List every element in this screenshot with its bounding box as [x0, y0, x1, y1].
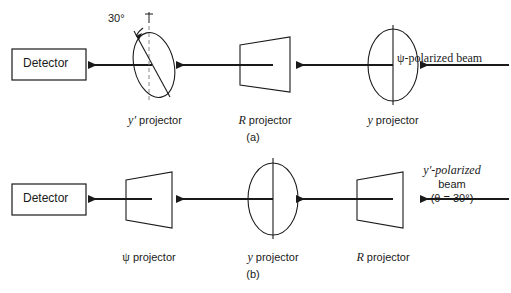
y-prime-var-b: y′-polarized: [423, 163, 480, 177]
y-projector-label-b: y projector: [247, 250, 298, 265]
y-prime-projector-word: projector: [136, 114, 182, 126]
beam-source-label-b: y′-polarized beam (θ = 30°): [423, 163, 480, 206]
beam-source-line3: (θ = 30°): [423, 192, 480, 206]
beam-source-line1: y′-polarized: [423, 163, 480, 178]
beam-source-line2: beam: [423, 178, 480, 192]
psi-projector-label-b: ψ projector: [122, 250, 175, 265]
angle-label-30deg: 30°: [108, 12, 125, 26]
y-projector-word-a: projector: [373, 114, 419, 126]
panel-caption-b: (b): [246, 268, 259, 282]
psi-var-b: ψ: [122, 250, 130, 264]
detector-label-a: Detector: [23, 56, 68, 71]
r-projector-word-b: projector: [364, 251, 410, 263]
detector-label-b: Detector: [23, 191, 68, 206]
y-prime-projector-label: y′ projector: [128, 113, 182, 128]
y-projector-word-b: projector: [253, 251, 299, 263]
r-projector-word-a: projector: [246, 114, 292, 126]
y-prime-projector-glyph: [127, 12, 181, 103]
r-projector-label-b: R projector: [356, 250, 409, 265]
y-projector-label-a: y projector: [367, 113, 418, 128]
psi-symbol-a: ψ-polarized beam: [397, 51, 482, 65]
psi-projector-word-b: projector: [130, 251, 176, 263]
figure-root: Detector 30° ψ-polarized beam y′ project…: [0, 0, 511, 293]
r-projector-label-a: R projector: [238, 113, 291, 128]
beam-source-label-a: ψ-polarized beam: [397, 51, 482, 66]
panel-caption-a: (a): [246, 131, 259, 145]
y-prime-var: y′: [128, 113, 136, 127]
